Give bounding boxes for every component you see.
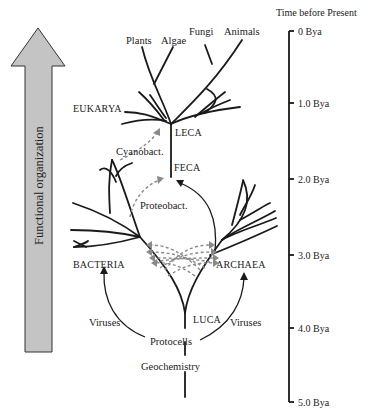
tree-of-life-diagram: Functional organization Time before Pres… — [0, 0, 368, 417]
tick-label-4: 4.0 Bya — [298, 323, 330, 334]
label-animals: Animals — [224, 26, 260, 37]
tick-label-0: 0 Bya — [298, 26, 322, 37]
tick-label-3: 3.0 Bya — [298, 250, 330, 261]
label-proteobact: Proteobact. — [140, 200, 188, 211]
arrowhead-icon — [240, 272, 248, 280]
arrowhead-icon — [157, 176, 164, 184]
label-luca: LUCA — [193, 314, 222, 325]
label-leca: LECA — [175, 127, 202, 138]
tick-label-1: 1.0 Bya — [298, 98, 330, 109]
label-viruses-left: Viruses — [89, 317, 120, 328]
tick-label-5: 5.0 Bya — [298, 397, 330, 408]
label-plants: Plants — [126, 35, 152, 46]
proteobact-arrow — [130, 180, 160, 217]
label-eukarya: EUKARYA — [73, 103, 122, 114]
label-cyanobact: Cyanobact. — [116, 146, 164, 157]
label-viruses-right: Viruses — [230, 317, 261, 328]
label-protocells: Protocells — [150, 336, 192, 347]
label-geochemistry: Geochemistry — [141, 361, 201, 372]
label-feca: FECA — [174, 162, 201, 173]
archaea-to-feca-arrow — [180, 183, 216, 252]
functional-organization-arrow: Functional organization — [11, 28, 65, 352]
label-fungi: Fungi — [189, 26, 214, 37]
arrowhead-icon — [153, 128, 160, 136]
label-algae: Algae — [161, 35, 186, 46]
bacteria-branches — [71, 160, 140, 247]
eukarya-branches — [122, 40, 242, 124]
label-bacteria: BACTERIA — [73, 259, 125, 270]
arrow-label: Functional organization — [32, 125, 46, 245]
time-axis-title: Time before Present — [276, 7, 357, 18]
tree-labels: Plants Algae Fungi Animals EUKARYA LECA … — [73, 26, 266, 372]
time-axis: Time before Present 0 Bya 1.0 Bya 2.0 By… — [276, 7, 357, 408]
tick-label-2: 2.0 Bya — [298, 174, 330, 185]
label-archaea: ARCHAEA — [216, 259, 266, 270]
viruses-right-arrow — [200, 278, 244, 340]
